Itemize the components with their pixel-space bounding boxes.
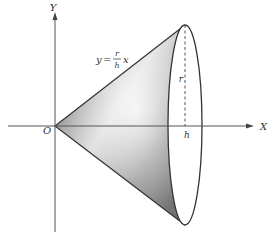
y-axis-arrow-icon (53, 12, 58, 20)
height-label: h (184, 130, 190, 140)
equation-variable: x (123, 54, 129, 65)
radius-label: r (179, 74, 184, 84)
cone-diagram: Y X O r h y = r h x (0, 0, 268, 239)
equation-numerator: r (115, 49, 120, 58)
x-axis-arrow-icon (246, 124, 254, 129)
line-equation: y = r h x (95, 49, 129, 70)
x-axis-label: X (259, 121, 268, 132)
cone-body (55, 25, 185, 225)
y-axis-label: Y (50, 2, 58, 13)
y-axis (53, 12, 58, 232)
diagram-canvas: Y X O r h y = r h x (0, 0, 268, 239)
origin-label: O (43, 125, 51, 136)
equation-denominator: h (114, 61, 119, 70)
equation-equals: = (103, 54, 111, 65)
equation-lhs: y (95, 54, 102, 65)
